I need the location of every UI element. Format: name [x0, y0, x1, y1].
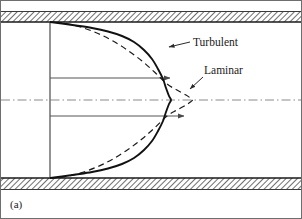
- velocity-profile-diagram: Turbulent Laminar (a): [0, 0, 302, 219]
- figure-caption: (a): [10, 198, 23, 211]
- pipe-bottom-wall: [1, 178, 301, 190]
- turbulent-label: Turbulent: [193, 36, 239, 48]
- laminar-label: Laminar: [204, 64, 243, 76]
- figure-container: Turbulent Laminar (a): [0, 0, 302, 219]
- top-wall-hatch: [1, 11, 301, 22]
- pipe-top-wall: [1, 11, 301, 22]
- bottom-wall-hatch: [1, 178, 301, 189]
